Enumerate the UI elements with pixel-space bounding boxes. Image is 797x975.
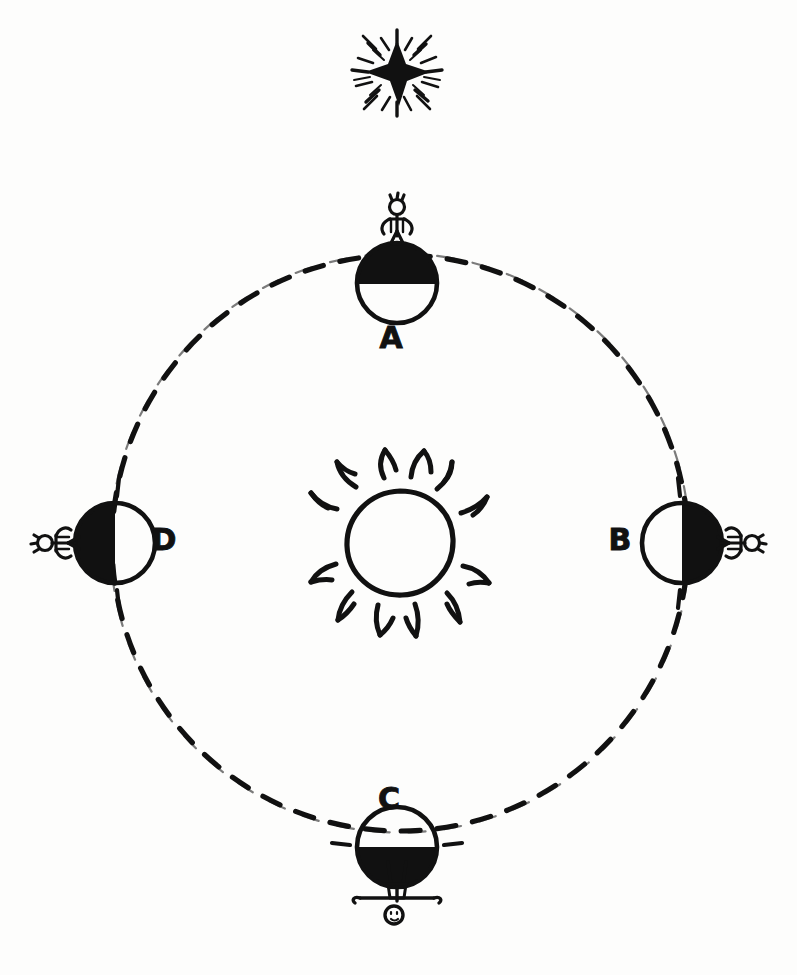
position-label-c: C: [378, 781, 400, 816]
position-label-b: B: [609, 522, 632, 557]
axis-tick-c: [332, 843, 462, 845]
observer-figure-d: [31, 528, 79, 558]
axis-tick-b: [678, 478, 680, 608]
earth-position-c: C: [332, 781, 462, 925]
observer-figure-a: [382, 193, 412, 243]
earth-position-b: B: [609, 478, 766, 608]
earth-position-d: D: [31, 478, 176, 608]
observer-figure-b: [718, 528, 766, 558]
star-icon: [352, 30, 442, 116]
earth-position-a: A: [350, 193, 446, 355]
orbit-diagram-canvas: A: [0, 0, 797, 975]
position-label-d: D: [152, 522, 177, 557]
sun-icon: [311, 450, 489, 636]
diagram-svg: A: [0, 0, 797, 975]
axis-tick-d: [117, 478, 119, 608]
position-label-a: A: [379, 320, 403, 355]
